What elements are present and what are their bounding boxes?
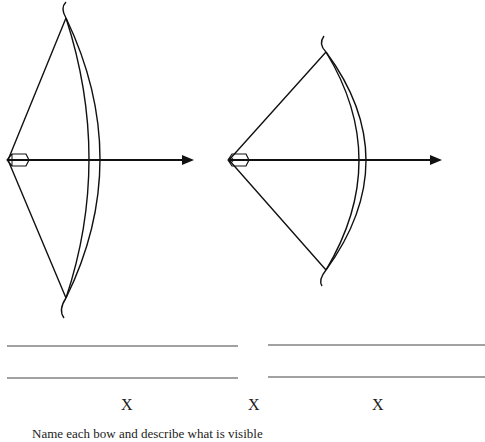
left-arrowhead-icon: [182, 155, 194, 165]
left-bow-limb-inner: [66, 18, 89, 298]
right-bow-bottom-tip: [321, 270, 326, 286]
x-mark-right: X: [372, 396, 384, 414]
right-bow-top-tip: [321, 36, 326, 52]
right-arrowhead-icon: [430, 155, 442, 165]
left-bow-bottom-tip: [61, 298, 66, 318]
left-bow-top-tip: [63, 2, 66, 18]
left-bow-string: [8, 18, 66, 298]
answer-lines: [7, 345, 485, 378]
right-arrow: [228, 154, 442, 166]
left-bow-limb-outer: [66, 18, 100, 298]
x-mark-left: X: [121, 396, 133, 414]
x-mark-center: X: [248, 396, 260, 414]
caption-text: Name each bow and describe what is visib…: [32, 426, 263, 442]
